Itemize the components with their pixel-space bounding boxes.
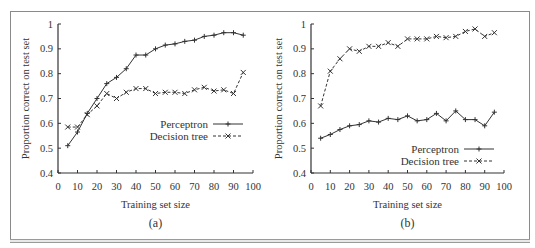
chart-b: 0.40.50.60.70.80.91010203040506070809010… [0, 0, 535, 248]
legend-swatch [464, 147, 494, 152]
x-tick-label: 80 [460, 181, 471, 192]
x-tick-label: 100 [496, 181, 512, 192]
y-tick-label: 0.9 [293, 43, 306, 54]
legend-swatch [464, 159, 494, 164]
x-tick-label: 30 [364, 181, 375, 192]
y-tick-label: 0.8 [293, 68, 306, 79]
y-tick-label: 0.7 [293, 93, 306, 104]
x-tick-label: 40 [383, 181, 394, 192]
y-tick-label: 0.5 [293, 143, 306, 154]
legend-label: Decision tree [401, 155, 459, 167]
x-tick-label: 60 [422, 181, 433, 192]
x-tick-label: 10 [325, 181, 336, 192]
legend-label: Perceptron [411, 143, 459, 155]
x-tick-label: 50 [402, 181, 413, 192]
series-perceptron [318, 108, 497, 140]
y-tick-label: 0.6 [293, 118, 306, 129]
x-tick-label: 0 [308, 181, 313, 192]
x-tick-label: 20 [344, 181, 355, 192]
chart-caption: (b) [401, 216, 415, 230]
x-tick-label: 90 [479, 181, 490, 192]
y-tick-label: 0.4 [293, 168, 307, 179]
series-line [321, 29, 495, 106]
series-decision-tree [318, 26, 497, 108]
x-axis-title: Training set size [373, 199, 442, 210]
y-axis-title: Proportion correct on test set [273, 38, 284, 159]
x-tick-label: 70 [441, 181, 452, 192]
y-tick-label: 1 [301, 19, 306, 30]
